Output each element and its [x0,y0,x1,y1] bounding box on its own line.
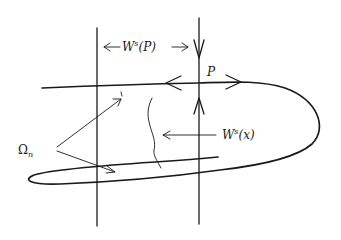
unstable-manifold-curve [29,82,320,184]
ws-p-label: Ws(P) [122,39,156,54]
point-p-label: P [206,65,216,79]
ws-x-label: Ws(x) [222,127,255,142]
omega-upper-tick [121,92,122,96]
manifold-diagram: Ws(P) P Ws(x) Ωn [0,0,341,240]
omega-label: Ωn [18,143,33,159]
stable-fiber-curve [148,98,161,168]
omega-arrow-upper-shaft [57,99,121,147]
